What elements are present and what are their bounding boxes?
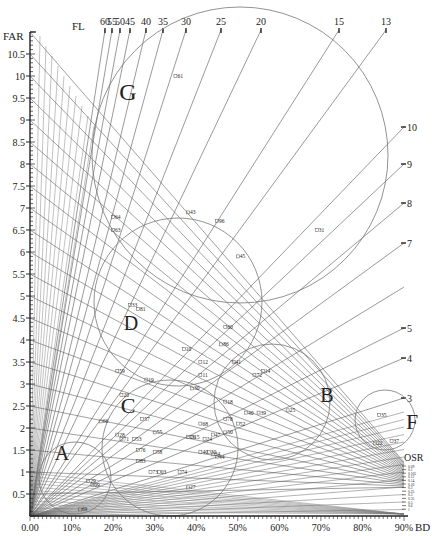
data-point: 78 bbox=[224, 416, 233, 422]
point-id-label: 11 bbox=[202, 372, 208, 378]
point-id-label: 57 bbox=[144, 416, 150, 422]
cluster-circles: ABCDFG bbox=[39, 7, 418, 516]
data-point: 45 bbox=[236, 253, 245, 259]
point-id-label: 71 bbox=[123, 436, 129, 442]
osr-label: OSR bbox=[404, 452, 424, 463]
data-point: 53 bbox=[132, 436, 141, 442]
y-tick-label: 8 bbox=[20, 159, 25, 170]
point-id-label: 66 bbox=[103, 418, 109, 424]
point-id-label: 44 bbox=[219, 454, 225, 460]
fl-value-label: 15 bbox=[334, 16, 344, 27]
point-id-label: 33 bbox=[132, 302, 138, 308]
point-id-label: 50 bbox=[227, 429, 233, 435]
point-id-label: 45 bbox=[240, 253, 246, 259]
point-id-label: 19 bbox=[148, 377, 154, 383]
point-id-label: 43 bbox=[190, 209, 196, 215]
fl-value-label: 35 bbox=[158, 16, 168, 27]
point-id-label: 52 bbox=[240, 421, 246, 427]
data-point: 60 bbox=[224, 324, 233, 330]
data-point: 86 bbox=[220, 341, 229, 347]
point-id-label: 25 bbox=[290, 407, 296, 413]
data-point: 63 bbox=[112, 227, 121, 233]
data-point: 24 bbox=[203, 436, 212, 442]
cluster-label: F bbox=[406, 409, 418, 434]
fl-label: FL bbox=[72, 20, 85, 32]
y-tick-label: 1.5 bbox=[13, 445, 26, 456]
data-point: 47 bbox=[211, 432, 220, 438]
point-id-label: 12 bbox=[202, 359, 208, 365]
point-id-label: 24 bbox=[207, 436, 213, 442]
far-bd-isoline-chart: 605550454035302520151310987543 0.090.10.… bbox=[0, 0, 432, 536]
point-id-label: 55 bbox=[157, 429, 163, 435]
y-tick-label: 10 bbox=[15, 71, 25, 82]
point-id-label: 60 bbox=[227, 324, 233, 330]
point-id-label: 39 bbox=[261, 410, 267, 416]
fl-value-label: 50 bbox=[115, 16, 125, 27]
point-id-label: 59 bbox=[119, 368, 125, 374]
y-tick-label: 8.5 bbox=[13, 137, 26, 148]
y-tick-label: 3.5 bbox=[13, 357, 26, 368]
point-id-label: 47 bbox=[215, 432, 221, 438]
point-id-label: 31 bbox=[319, 227, 325, 233]
fl-value-label: 40 bbox=[141, 16, 151, 27]
x-tick-label: 0.00 bbox=[21, 522, 39, 533]
point-id-label: 41 bbox=[236, 359, 242, 365]
y-tick-label: 5.5 bbox=[13, 269, 26, 280]
data-point: 55 bbox=[153, 429, 162, 435]
cluster-label: G bbox=[119, 79, 136, 105]
data-point: 74 bbox=[178, 469, 187, 475]
point-id-label: 40 bbox=[248, 410, 254, 416]
y-axis-label: FAR bbox=[3, 30, 24, 42]
fl-value-label: 30 bbox=[181, 16, 191, 27]
y-tick-label: 2.5 bbox=[13, 401, 26, 412]
x-tick-label: 90% bbox=[395, 522, 413, 533]
point-id-label: 35 bbox=[381, 412, 387, 418]
x-tick-label: 10% bbox=[62, 522, 80, 533]
point-id-label: 58 bbox=[157, 449, 163, 455]
data-point: 18 bbox=[224, 399, 233, 405]
data-point: 52 bbox=[236, 421, 245, 427]
fl-value-label: 13 bbox=[381, 16, 391, 27]
data-point: 68 bbox=[199, 421, 208, 427]
point-id-label: 72 bbox=[256, 372, 262, 378]
data-point: 40 bbox=[199, 449, 208, 455]
fl-value-label: 8 bbox=[407, 198, 412, 209]
y-tick-label: 2 bbox=[20, 423, 25, 434]
point-id-label: 30 bbox=[194, 385, 200, 391]
x-tick-label: 20% bbox=[104, 522, 122, 533]
fl-value-label: 45 bbox=[125, 16, 135, 27]
data-point: 58 bbox=[153, 449, 162, 455]
data-point: 72 bbox=[253, 372, 262, 378]
data-point: 59 bbox=[116, 368, 125, 374]
y-tick-label: 6 bbox=[20, 247, 25, 258]
data-point: 37 bbox=[390, 438, 399, 444]
cluster-label: A bbox=[55, 442, 70, 464]
x-axis-label: BD bbox=[415, 521, 430, 533]
fl-value-label: 20 bbox=[256, 16, 266, 27]
point-id-label: 61 bbox=[177, 73, 183, 79]
cluster-label: B bbox=[320, 384, 333, 406]
fl-value-label: 10 bbox=[407, 122, 417, 133]
fl-value-label: 9 bbox=[407, 159, 412, 170]
data-point: 11 bbox=[199, 372, 208, 378]
fl-value-label: 25 bbox=[216, 16, 226, 27]
data-point: 40 bbox=[245, 410, 254, 416]
point-id-label: 78 bbox=[227, 416, 233, 422]
fl-value-label: 5 bbox=[407, 323, 412, 334]
point-id-label: 30 bbox=[211, 449, 217, 455]
point-id-label: 10 bbox=[186, 346, 192, 352]
point-id-label: 27 bbox=[190, 484, 196, 490]
point-id-label: 15 bbox=[194, 434, 200, 440]
point-id-label: 18 bbox=[227, 399, 233, 405]
point-id-label: 69 bbox=[82, 506, 88, 512]
point-id-label: 68 bbox=[202, 421, 208, 427]
data-point: 43 bbox=[186, 209, 195, 215]
fl-value-label: 4 bbox=[407, 353, 412, 364]
point-id-label: 63 bbox=[115, 227, 121, 233]
point-id-label: 09 bbox=[94, 482, 100, 488]
point-id-label: 37 bbox=[394, 438, 400, 444]
data-point: 39 bbox=[257, 410, 266, 416]
data-point: 96 bbox=[216, 218, 225, 224]
data-point: 73 bbox=[149, 469, 158, 475]
point-id-label: 20 bbox=[123, 392, 129, 398]
